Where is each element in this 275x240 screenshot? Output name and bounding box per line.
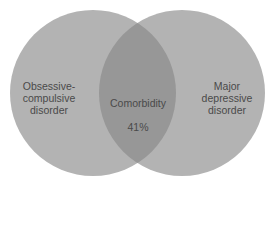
comorbidity-value: 41% — [102, 121, 174, 133]
comorbidity-title: Comorbidity — [102, 97, 174, 109]
label-obsessive-compulsive-disorder: Obsessive- compulsive disorder — [16, 80, 82, 116]
label-comorbidity: Comorbidity 41% — [102, 85, 174, 145]
label-major-depressive-disorder: Major depressive disorder — [194, 80, 260, 116]
